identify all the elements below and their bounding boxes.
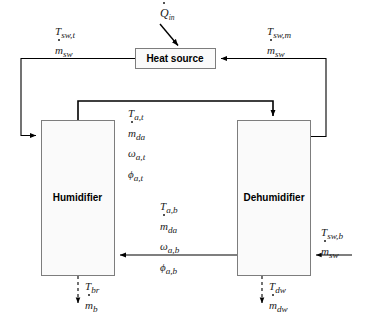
seawater-bottom-right-label: Tsw,b msw — [321, 225, 343, 263]
air-top-line — [78, 101, 273, 120]
humidifier-label: Humidifier — [41, 192, 114, 203]
seawater-top-right-label: Tsw,m msw — [267, 24, 291, 62]
seawater-top-left-label: Tsw,t msw — [55, 24, 75, 62]
air-bottom-label: Ta,b mda ωa,b ϕa,b — [160, 198, 179, 279]
brine-outlet-label: Tbr mb — [85, 279, 99, 317]
heat-input-arrow — [160, 24, 178, 46]
distillate-outlet-label: Tdw mdw — [269, 279, 288, 317]
hdh-desalination-diagram: Heat source Humidifier Dehumidifier Qin … — [0, 0, 366, 321]
heat-source-label: Heat source — [135, 53, 215, 64]
dehumidifier-label: Dehumidifier — [233, 192, 315, 203]
air-top-label: Ta,t mda ωa,t ϕa,t — [128, 105, 145, 186]
heat-input-label: Qin — [160, 6, 175, 25]
